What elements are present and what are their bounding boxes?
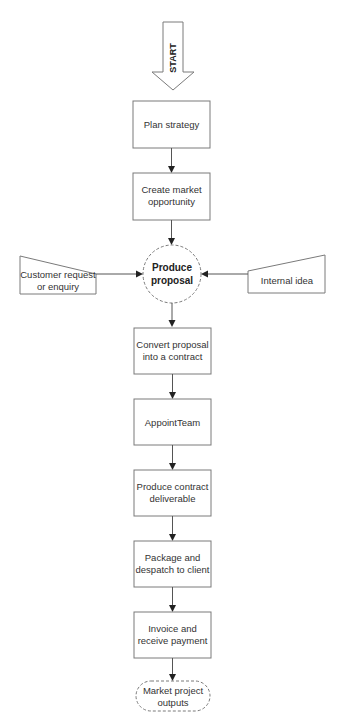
input-right-line-1: Internal idea [261,275,314,286]
arrow-head-icon [169,534,176,541]
step-invoice-line-1: Invoice and [148,623,197,634]
step-create-line-2: opportunity [148,196,195,207]
step-produce-deliverable: Produce contract deliverable [134,470,211,516]
step-create-market-opportunity: Create market opportunity [133,173,210,220]
step-package-line-2: despatch to client [136,564,210,575]
arrow-head-icon [136,271,143,278]
input-internal-idea: Internal idea [248,255,325,293]
step-package-despatch: Package and despatch to client [134,541,211,587]
step-produce-proposal: Produce proposal [143,245,201,303]
arrow-head-icon [168,238,175,245]
step-convert-line-2: into a contract [143,351,203,362]
arrow-head-icon [169,392,176,399]
step-deliverable-line-1: Produce contract [137,481,209,492]
start-label: START [168,43,178,73]
arrow-head-icon [169,674,176,681]
step-appoint-team: AppointTeam [134,399,211,445]
step-plan-strategy: Plan strategy [133,101,210,148]
step-market-line-2: outputs [157,697,188,708]
step-plan-strategy-label: Plan strategy [144,119,200,130]
step-market-outputs: Market project outputs [136,681,210,711]
start-arrow: START [152,22,194,90]
arrow-head-icon [169,605,176,612]
step-produce-line-1: Produce [152,262,192,273]
step-invoice-payment: Invoice and receive payment [134,612,211,658]
arrow-head-icon [201,271,208,278]
arrow-head-icon [168,166,175,173]
flowchart: START Plan strategy Create market opport… [0,0,345,725]
step-create-line-1: Create market [141,184,202,195]
input-customer-request: Customer request or enquiry [20,256,96,294]
input-left-line-1: Customer request [20,269,96,280]
step-convert-line-1: Convert proposal [136,339,208,350]
step-market-line-1: Market project [143,685,204,696]
step-invoice-line-2: receive payment [138,635,208,646]
step-convert-proposal: Convert proposal into a contract [134,328,211,374]
step-package-line-1: Package and [145,552,200,563]
step-produce-line-2: proposal [151,275,193,286]
input-left-line-2: or enquiry [37,281,79,292]
step-appoint-label: AppointTeam [145,417,201,428]
arrow-head-icon [169,320,176,327]
step-deliverable-line-2: deliverable [150,493,196,504]
arrow-head-icon [169,463,176,470]
